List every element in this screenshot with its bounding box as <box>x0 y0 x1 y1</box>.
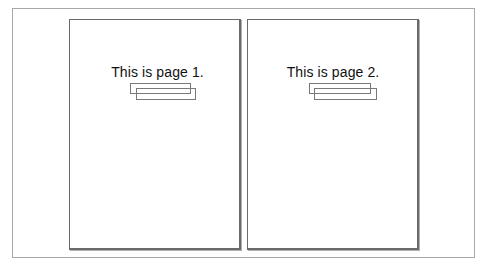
page-2[interactable]: This is page 2. <box>247 19 419 250</box>
page-2-text: This is page 2. <box>249 64 417 80</box>
print-preview-stage: This is page 1. This is page 2. <box>0 0 489 265</box>
page-1[interactable]: This is page 1. <box>69 19 241 250</box>
page-1-text: This is page 1. <box>76 64 239 80</box>
page-2-box-b <box>314 88 377 100</box>
page-1-box-b <box>136 88 196 100</box>
